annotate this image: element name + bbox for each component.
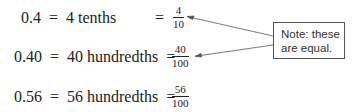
note-box: Note: these are equal. [273,22,345,59]
note-line-2: are equal. [281,41,344,55]
note-line-1: Note: these [281,27,344,41]
